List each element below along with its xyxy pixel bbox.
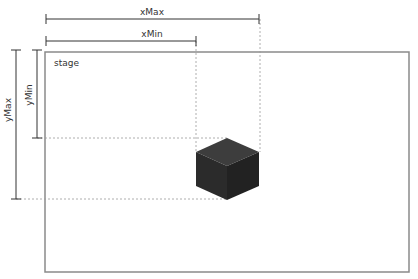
xmin-ruler	[46, 36, 196, 46]
ymin-label: yMin	[24, 84, 34, 105]
ymax-label: yMax	[3, 97, 13, 122]
cube-object	[196, 138, 259, 200]
ymax-ruler	[11, 50, 21, 199]
xmax-label: xMax	[140, 7, 165, 17]
min-max-bounds-diagram: stage xMax xMin yMax yMin	[0, 0, 418, 279]
xmin-label: xMin	[141, 29, 162, 39]
stage-label: stage	[54, 58, 79, 68]
